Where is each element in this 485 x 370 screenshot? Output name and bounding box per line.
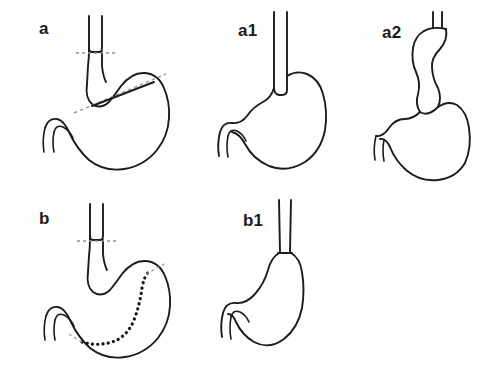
interposition-graft-inner-wall <box>432 29 447 107</box>
panel-a1-label: a1 <box>238 22 257 39</box>
esophagus-right-wall <box>279 12 287 95</box>
graft-gastric-junction <box>420 107 438 114</box>
esophagus-left-wall <box>279 200 280 252</box>
panel-a1: a1 <box>195 6 345 181</box>
duodenum-inner-wall <box>383 140 384 161</box>
panel-a1-drawing <box>195 6 345 181</box>
stomach-outline <box>376 103 470 180</box>
esophagus-right-wall <box>89 16 102 52</box>
stomach-outline <box>218 72 326 168</box>
esophagus-right-wall <box>90 204 103 240</box>
esophagogastric-anastomosis <box>424 28 446 31</box>
duodenum-outline <box>230 317 231 339</box>
esophagus-lower-wall <box>103 240 107 270</box>
panel-a-label: a <box>39 20 49 37</box>
esophagus-left-wall <box>274 12 279 95</box>
panel-b1-label: b1 <box>243 212 263 229</box>
panel-a2-label: a2 <box>382 24 401 41</box>
oblique-resection-stroke <box>92 82 154 106</box>
panel-a: a <box>14 6 184 181</box>
duodenum-outline <box>374 136 376 160</box>
duodenum-outline <box>44 316 55 340</box>
panel-b1-drawing <box>200 196 350 368</box>
esophagus-right-wall <box>290 200 291 252</box>
panel-b-label: b <box>39 210 50 227</box>
gastric-tube-greater-curve <box>228 253 304 345</box>
panel-b1: b1 <box>200 196 350 368</box>
interposition-graft-outer-wall <box>412 31 424 112</box>
panel-b: b <box>14 196 189 368</box>
duodenum-outline <box>227 136 228 157</box>
esophagus-lower-wall <box>102 52 106 82</box>
duodenum-outline <box>43 128 54 152</box>
panel-a2: a2 <box>368 6 485 184</box>
stomach-outline <box>45 73 169 170</box>
figure-canvas: a a1 <box>0 0 485 370</box>
